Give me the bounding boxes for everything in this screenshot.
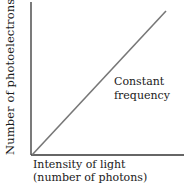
series-annotation: Constant frequency	[114, 75, 170, 103]
annotation-line-2: frequency	[114, 89, 170, 103]
x-axis-label-line-2: (number of photons)	[33, 171, 147, 184]
x-axis-label-line-1: Intensity of light	[33, 158, 147, 171]
annotation-line-1: Constant	[114, 75, 170, 89]
y-axis-label: Number of photoelectrons	[3, 0, 17, 155]
x-axis-label: Intensity of light (number of photons)	[33, 158, 147, 184]
